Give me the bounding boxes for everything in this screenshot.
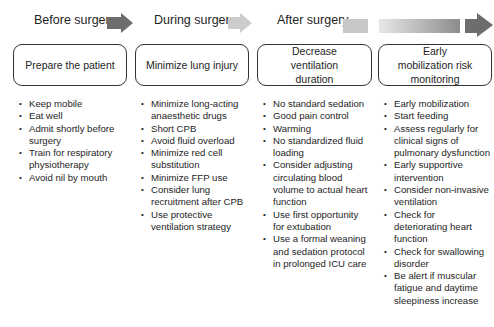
- box-prepare-patient: Prepare the patient: [13, 44, 127, 86]
- list-item: Use a formal weaning and sedation protoc…: [262, 233, 370, 270]
- list-item: Check for swallowing disorder: [383, 246, 491, 271]
- box-minimize-lung-injury: Minimize lung injury: [135, 44, 249, 86]
- list-item: Early mobilization: [383, 98, 491, 110]
- arrow-right-icon: [107, 13, 133, 33]
- list-item: Be alert if muscular fatigue and daytime…: [383, 270, 491, 307]
- box-decrease-ventilation: Decrease ventilation duration: [257, 44, 372, 86]
- list-item: Use protective ventilation strategy: [140, 209, 252, 234]
- box-title: Decrease ventilation duration: [276, 44, 353, 86]
- after-surgery-bar: [343, 19, 368, 33]
- list-item: Avoid nil by mouth: [18, 172, 130, 184]
- list-item: Minimize red cell substitution: [140, 147, 252, 172]
- list-item: Minimize long-acting anaesthetic drugs: [140, 98, 252, 123]
- phase-before-surgery: Before surgery: [34, 13, 116, 27]
- list-early-mobilization: Early mobilization Start feeding Assess …: [383, 98, 491, 307]
- list-during-surgery: Minimize long-acting anaesthetic drugs S…: [140, 98, 252, 233]
- gradient-arrow-icon: [379, 13, 494, 37]
- list-item: Consider adjusting circulating blood vol…: [262, 159, 370, 208]
- list-item: Early supportive intervention: [383, 159, 491, 184]
- box-early-mobilization: Early mobilization risk monitoring: [378, 44, 492, 86]
- list-item: Admit shortly before surgery: [18, 123, 130, 148]
- list-item: Assess regularly for clinical signs of p…: [383, 123, 491, 160]
- arrow-right-icon: [228, 13, 252, 33]
- list-item: Keep mobile: [18, 98, 130, 110]
- list-item: Eat well: [18, 110, 130, 122]
- list-item: Use first opportunity for extubation: [262, 209, 370, 234]
- list-item: Good pain control: [262, 110, 370, 122]
- list-item: Check for deteriorating heart function: [383, 209, 491, 246]
- list-before-surgery: Keep mobile Eat well Admit shortly befor…: [18, 98, 130, 184]
- box-title: Minimize lung injury: [146, 58, 238, 72]
- list-after-surgery: No standard sedation Good pain control W…: [262, 98, 370, 270]
- list-item: No standardized fluid loading: [262, 135, 370, 160]
- box-title: Early mobilization risk monitoring: [397, 44, 473, 86]
- list-item: Avoid fluid overload: [140, 135, 252, 147]
- phase-after-surgery: After surgery: [277, 13, 349, 27]
- list-item: Consider non-invasive ventilation: [383, 184, 491, 209]
- list-item: Start feeding: [383, 110, 491, 122]
- list-item: Train for respiratory physiotherapy: [18, 147, 130, 172]
- list-item: Minimize FFP use: [140, 172, 252, 184]
- box-title: Prepare the patient: [25, 58, 114, 72]
- list-item: No standard sedation: [262, 98, 370, 110]
- list-item: Warming: [262, 123, 370, 135]
- phase-during-surgery: During surgery: [154, 13, 236, 27]
- list-item: Short CPB: [140, 123, 252, 135]
- list-item: Consider lung recruitment after CPB: [140, 184, 252, 209]
